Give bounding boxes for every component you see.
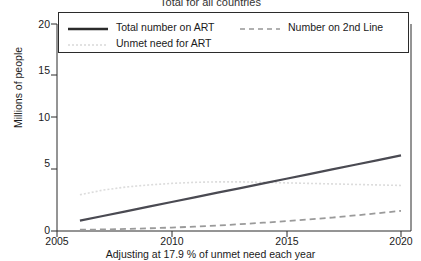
legend-entry-unmet-need-for-art: Unmet need for ART [67,35,212,50]
legend-line-dotted-icon [67,37,109,49]
legend-label-number-on-2nd-line: Number on 2nd Line [288,21,383,33]
legend-label-total-number-on-art: Total number on ART [116,21,214,33]
legend-entry-total-number-on-art: Total number on ART [67,19,214,34]
series-number-on-2nd-line [80,211,401,230]
legend-line-solid-icon [67,21,109,33]
chart-figure: Total for all countries Millions of peop… [0,0,421,261]
y-axis-ticks [51,24,57,231]
legend-line-dashed-icon [239,21,281,33]
legend-label-unmet-need-for-art: Unmet need for ART [116,37,212,49]
legend-entry-number-on-2nd-line: Number on 2nd Line [239,19,383,34]
axis-frame [57,24,411,231]
x-axis-ticks [57,231,401,237]
chart-legend: Total number on ART Number on 2nd Line U… [58,12,409,53]
series-total-number-on-art [80,155,401,220]
